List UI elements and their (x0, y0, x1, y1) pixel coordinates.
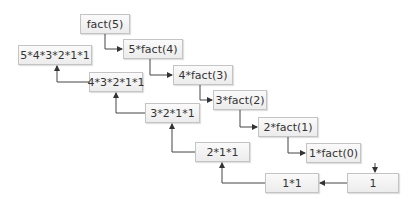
return-node-5x4x3x2x1x1: 5*4*3*2*1*1 (18, 45, 92, 65)
call-node-fact2: 3*fact(2) (213, 90, 267, 110)
return-node-1: 1 (347, 173, 399, 193)
call-node-fact4: 5*fact(4) (123, 39, 183, 59)
return-node-3x2x1x1: 3*2*1*1 (145, 103, 200, 123)
call-node-fact3: 4*fact(3) (173, 65, 233, 85)
return-node-2x1x1: 2*1*1 (195, 142, 250, 162)
call-node-fact0: 1*fact(0) (306, 143, 361, 163)
factorial-recursion-diagram: fact(5) 5*fact(4) 4*fact(3) 3*fact(2) 2*… (0, 0, 418, 199)
return-node-1x1: 1*1 (265, 173, 319, 193)
connector-arrows (0, 0, 418, 199)
call-node-fact5: fact(5) (80, 14, 130, 34)
return-node-4x3x2x1x1: 4*3*2*1*1 (89, 72, 143, 92)
call-node-fact1: 2*fact(1) (258, 117, 318, 137)
